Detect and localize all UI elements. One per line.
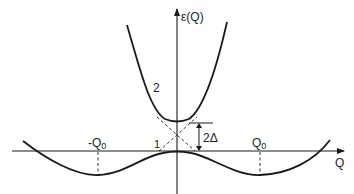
x-axis-label: Q: [335, 156, 344, 170]
curve-lower-label: 1: [154, 138, 160, 150]
left-min-label: -Q0: [88, 136, 106, 151]
left-min-label-main: -Q: [88, 136, 101, 150]
curve-upper-label: 2: [153, 81, 160, 95]
right-min-label: Q0: [252, 136, 266, 151]
energy-diagram: ε(Q) Q 2 1 2Δ -Q0 Q0: [0, 0, 354, 194]
left-min-label-sub: 0: [101, 141, 106, 151]
right-min-label-main: Q: [252, 136, 261, 150]
y-axis-label: ε(Q): [181, 10, 204, 24]
gap-label: 2Δ: [203, 131, 218, 145]
gap-arrow-head-down: [196, 146, 202, 151]
right-min-label-sub: 0: [261, 141, 266, 151]
gap-arrow-head-up: [196, 123, 202, 128]
